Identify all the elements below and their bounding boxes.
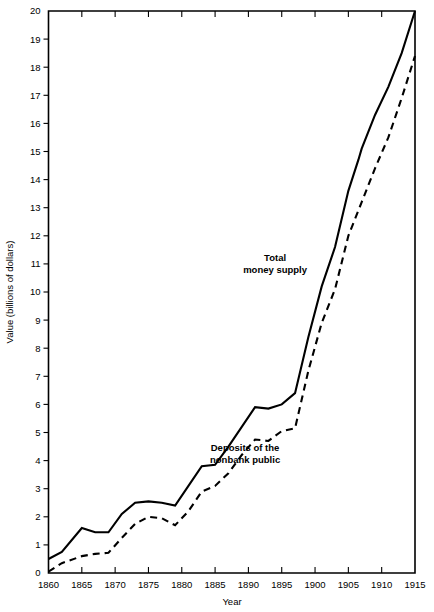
- y-tick-label: 17: [30, 90, 41, 101]
- annotation-total-money-supply-line2: money supply: [243, 264, 308, 275]
- x-tick-label: 1875: [138, 579, 159, 590]
- x-tick-label: 1900: [304, 579, 325, 590]
- y-tick-label: 16: [30, 118, 41, 129]
- y-tick-label: 2: [35, 511, 40, 522]
- y-tick-label: 9: [35, 315, 40, 326]
- y-tick-label: 4: [35, 455, 40, 466]
- y-tick-label: 15: [30, 146, 41, 157]
- annotation-total-money-supply-line1: Total: [264, 252, 286, 263]
- y-axis: 01234567891011121314151617181920: [30, 5, 49, 578]
- series-group: [49, 11, 416, 572]
- x-axis: 1860186518701875188018851890189519001905…: [38, 11, 426, 590]
- y-tick-label: 10: [30, 286, 41, 297]
- chart-container: 01234567891011121314151617181920 1860186…: [0, 0, 434, 612]
- y-tick-label: 5: [35, 427, 40, 438]
- y-tick-label: 19: [30, 34, 41, 45]
- x-axis-title: Year: [222, 596, 241, 607]
- y-tick-label: 8: [35, 343, 40, 354]
- y-tick-label: 7: [35, 371, 40, 382]
- plot-frame: [49, 11, 416, 573]
- money-supply-line-chart: 01234567891011121314151617181920 1860186…: [0, 0, 434, 612]
- x-tick-label: 1880: [171, 579, 192, 590]
- annotation-deposits-line2: nonbank public: [210, 454, 280, 465]
- x-tick-label: 1860: [38, 579, 59, 590]
- y-tick-label: 18: [30, 62, 41, 73]
- y-tick-label: 12: [30, 230, 41, 241]
- x-tick-label: 1910: [371, 579, 392, 590]
- x-tick-label: 1870: [105, 579, 126, 590]
- y-tick-label: 13: [30, 202, 41, 213]
- y-tick-label: 1: [35, 539, 40, 550]
- annotation-deposits-nonbank-public: Deposits of the nonbank public: [210, 442, 280, 465]
- annotation-total-money-supply: Total money supply: [243, 252, 308, 275]
- x-tick-label: 1890: [238, 579, 259, 590]
- y-tick-label: 3: [35, 483, 40, 494]
- x-tick-label: 1885: [205, 579, 226, 590]
- y-tick-label: 6: [35, 399, 40, 410]
- series-deposits-nonbank-public: [49, 56, 416, 572]
- y-tick-label: 0: [35, 567, 40, 578]
- x-tick-label: 1915: [404, 579, 425, 590]
- x-tick-label: 1905: [338, 579, 359, 590]
- y-tick-label: 11: [31, 258, 41, 269]
- y-tick-label: 14: [30, 174, 41, 185]
- series-total-money-supply: [49, 11, 416, 559]
- y-tick-label: 20: [30, 5, 41, 16]
- annotation-deposits-line1: Deposits of the: [211, 442, 280, 453]
- x-tick-label: 1865: [71, 579, 92, 590]
- x-tick-label: 1895: [271, 579, 292, 590]
- y-axis-title: Value (billions of dollars): [4, 241, 15, 344]
